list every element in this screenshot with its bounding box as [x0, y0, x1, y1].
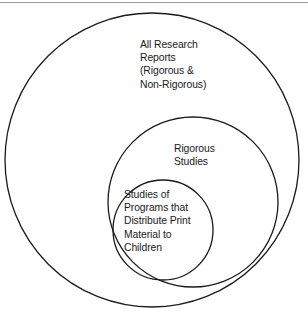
label-all-research-reports: All Research Reports (Rigorous & Non-Rig…: [140, 38, 260, 91]
label-studies-print-material: Studies of Programs that Distribute Prin…: [124, 188, 216, 254]
label-rigorous-studies: Rigorous Studies: [174, 142, 264, 168]
venn-diagram-figure: All Research Reports (Rigorous & Non-Rig…: [0, 0, 308, 315]
